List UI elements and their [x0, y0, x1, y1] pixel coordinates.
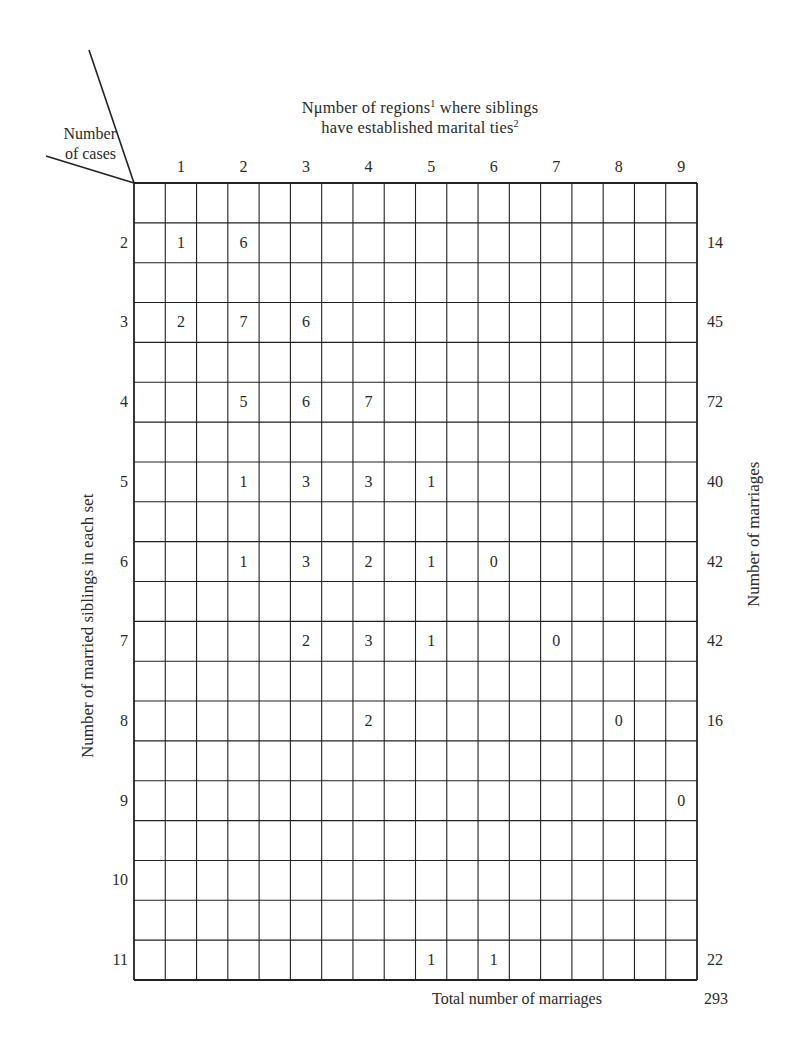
row-total: 22: [707, 951, 723, 969]
row-label: 10: [88, 871, 128, 889]
row-label: 2: [88, 234, 128, 252]
row-total: 16: [707, 712, 723, 730]
cell-value: 7: [354, 393, 384, 411]
column-label: 4: [354, 158, 384, 176]
corner-label-line2: of cases: [40, 144, 116, 164]
row-label: 3: [88, 313, 128, 331]
y-axis-label: Number of married siblings in each set: [78, 494, 98, 758]
cell-value: 2: [354, 712, 384, 730]
cell-value: 1: [228, 473, 258, 491]
cell-value: 3: [354, 473, 384, 491]
cell-value: 1: [416, 632, 446, 650]
right-axis-label: Number of marriages: [744, 462, 764, 607]
corner-label: Number of cases: [40, 124, 116, 164]
cell-value: 0: [604, 712, 634, 730]
row-total: 45: [707, 313, 723, 331]
column-label: 3: [291, 158, 321, 176]
row-label: 5: [88, 473, 128, 491]
cell-value: 2: [166, 313, 196, 331]
cell-value: 2: [291, 632, 321, 650]
title-line-1: Nμmber of regions1 where siblings: [240, 98, 600, 118]
cell-value: 3: [291, 473, 321, 491]
cell-value: 5: [228, 393, 258, 411]
cell-value: 0: [479, 553, 509, 571]
column-label: 1: [166, 158, 196, 176]
chart-title: Nμmber of regions1 where siblings have e…: [240, 98, 600, 138]
column-label: 7: [541, 158, 571, 176]
row-total: 42: [707, 632, 723, 650]
cell-value: 1: [166, 234, 196, 252]
cell-value: 3: [291, 553, 321, 571]
corner-label-line1: Number: [40, 124, 116, 144]
cell-value: 2: [354, 553, 384, 571]
cell-value: 3: [354, 632, 384, 650]
row-total: 42: [707, 553, 723, 571]
grand-total-label: Total number of marriages: [432, 990, 602, 1008]
cell-value: 6: [228, 234, 258, 252]
column-label: 9: [666, 158, 696, 176]
row-label: 4: [88, 393, 128, 411]
row-label: 9: [88, 792, 128, 810]
cell-value: 1: [416, 553, 446, 571]
row-total: 40: [707, 473, 723, 491]
cell-value: 1: [416, 473, 446, 491]
column-label: 8: [604, 158, 634, 176]
row-total: 14: [707, 234, 723, 252]
row-total: 72: [707, 393, 723, 411]
cell-value: 6: [291, 393, 321, 411]
cell-value: 1: [479, 951, 509, 969]
column-label: 5: [416, 158, 446, 176]
title-line-2: have established marital ties2: [240, 118, 600, 138]
cell-value: 6: [291, 313, 321, 331]
grand-total-value: 293: [704, 990, 728, 1008]
column-label: 6: [479, 158, 509, 176]
row-label: 11: [88, 951, 128, 969]
cell-value: 0: [666, 792, 696, 810]
cell-value: 1: [228, 553, 258, 571]
cell-value: 1: [416, 951, 446, 969]
cell-value: 7: [228, 313, 258, 331]
cell-value: 0: [541, 632, 571, 650]
column-label: 2: [228, 158, 258, 176]
